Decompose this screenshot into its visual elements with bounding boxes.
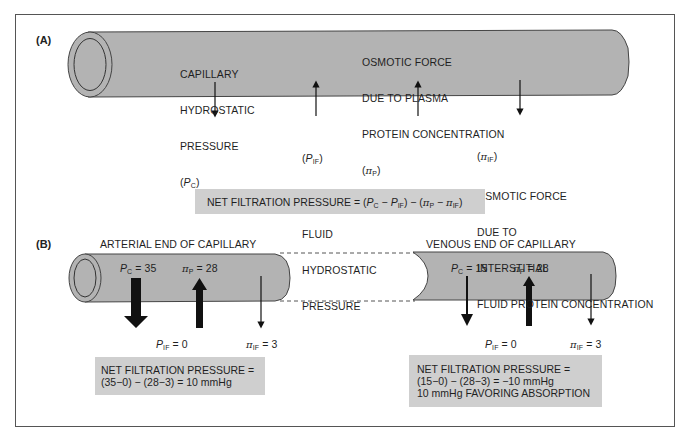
arterial-title: ARTERIAL END OF CAPILLARY [100,238,256,250]
pif-symbol: (PIF) [302,152,377,168]
venous-pif-value: PIF = 0 [485,338,517,354]
venous-pc-value: PC = 15 [451,262,487,278]
arterial-tube [69,254,290,302]
panel-b-label: (B) [36,238,51,250]
arterial-pc-value: PC = 35 [120,262,156,278]
panel-a-label: (A) [36,34,51,46]
capillary-tube-a [68,30,629,97]
piif-symbol: (πIF) [477,150,653,166]
arterial-pif-value: PIF = 0 [156,338,188,354]
venous-piif-value: πIF = 3 [570,338,601,354]
arterial-net-filtration-box: NET FILTRATION PRESSURE = (35−0) − (28−3… [95,357,265,395]
net-filtration-formula: NET FILTRATION PRESSURE = (PC − PIF) − (… [195,189,485,214]
venous-net-filtration-box: NET FILTRATION PRESSURE = (15−0) − (28−3… [409,355,602,407]
pif-label: (PIF) INTERSTITIAL FLUID HYDROSTATIC PRE… [302,128,377,324]
venous-title: VENOUS END OF CAPILLARY [426,238,576,250]
venous-pip-value: πP = 28 [513,262,549,278]
piif-label: (πIF) OSMOTIC FORCE DUE TO INTERSTITIAL … [477,126,653,322]
pc-label: CAPILLARY HYDROSTATIC PRESSURE (PC) [180,44,255,204]
arterial-piif-value: πIF = 3 [246,338,277,354]
arterial-pip-value: πP = 28 [182,262,218,278]
